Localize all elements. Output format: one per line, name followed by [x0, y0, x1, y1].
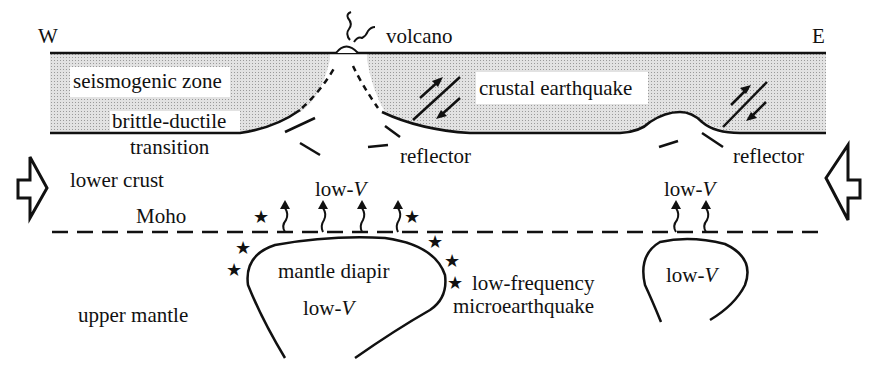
volcano-smoke-icon-2 — [354, 27, 375, 42]
reflector-segment — [385, 126, 400, 137]
reflector-segment — [659, 141, 678, 147]
reflector-segment — [702, 133, 723, 147]
melt-arrows-right — [674, 208, 708, 232]
crustal-earthquake-label: crustal earthquake — [479, 76, 632, 100]
reflector-segment — [368, 145, 388, 147]
svg-text:★: ★ — [404, 206, 420, 227]
svg-text:★: ★ — [447, 272, 463, 293]
reflector-segment — [285, 118, 315, 132]
compression-arrow-right-icon — [826, 145, 860, 220]
mantle-diapir-label: mantle diapir — [278, 259, 389, 283]
svg-text:★: ★ — [444, 250, 460, 271]
upper-mantle-label: upper mantle — [78, 303, 188, 327]
melt-arrowheads-left — [280, 200, 403, 209]
melt-arrows-left — [283, 208, 400, 232]
low-frequency-label: low-frequency — [472, 271, 595, 295]
seismogenic-zone-label: seismogenic zone — [73, 69, 222, 93]
svg-text:★: ★ — [226, 259, 242, 280]
low-v-label-diapir: low-V — [303, 296, 357, 320]
svg-text:★: ★ — [427, 231, 443, 252]
volcano-smoke-icon — [347, 12, 351, 40]
svg-text:★: ★ — [253, 206, 269, 227]
lower-crust-label: lower crust — [70, 168, 164, 192]
svg-text:★: ★ — [235, 237, 251, 258]
west-label: W — [38, 24, 58, 48]
microearthquake-label: microearthquake — [453, 294, 594, 318]
brittle-ductile-label: brittle-ductile — [112, 109, 226, 133]
low-v-label-crust-left: low-V — [315, 177, 369, 201]
reflector-segment — [300, 143, 320, 155]
reflector-label-right: reflector — [733, 144, 804, 168]
east-label: E — [812, 24, 825, 48]
volcano-icon — [336, 47, 358, 54]
compression-arrow-left-icon — [18, 157, 47, 218]
low-v-label-right-body: low-V — [666, 263, 720, 287]
low-v-label-crust-right: low-V — [664, 177, 718, 201]
melt-arrowheads-right — [671, 200, 711, 209]
reflector-label-left: reflector — [400, 144, 471, 168]
crustal-cross-section-diagram: ★ ★ ★ ★ ★ ★ ★ W E volcano seismogenic zo… — [0, 0, 878, 372]
moho-label: Moho — [136, 204, 186, 228]
volcano-label: volcano — [386, 24, 452, 48]
transition-label: transition — [130, 135, 210, 159]
